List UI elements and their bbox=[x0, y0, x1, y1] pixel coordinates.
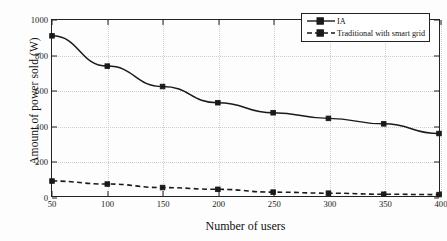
chart-figure: Amount of power sold (W) 501001502002503… bbox=[0, 0, 447, 241]
plot-area: 5010015020025030035040002004006008001000 bbox=[51, 19, 440, 197]
x-tick-label: 100 bbox=[101, 199, 114, 209]
series-line-2 bbox=[52, 181, 439, 195]
x-tick-label: 350 bbox=[379, 199, 392, 209]
legend-item-ia: IA bbox=[306, 16, 425, 26]
data-point-marker bbox=[50, 34, 55, 39]
data-point-marker bbox=[437, 192, 442, 197]
x-tick-label: 300 bbox=[323, 199, 336, 209]
data-point-marker bbox=[160, 84, 165, 89]
y-tick-label: 400 bbox=[35, 122, 48, 132]
x-tick-label: 150 bbox=[157, 199, 170, 209]
y-tick-label: 800 bbox=[35, 50, 48, 60]
series-layer bbox=[52, 20, 439, 196]
y-tick-label: 200 bbox=[35, 157, 48, 167]
chart-legend: IA Traditional with smart grid bbox=[301, 13, 430, 42]
y-tick-label: 1000 bbox=[31, 15, 48, 25]
data-point-marker bbox=[326, 116, 331, 121]
y-tick-mark bbox=[52, 198, 57, 199]
data-point-marker bbox=[381, 122, 386, 127]
data-point-marker bbox=[160, 185, 165, 190]
data-point-marker bbox=[105, 64, 110, 69]
legend-label-ia: IA bbox=[337, 17, 346, 26]
data-point-marker bbox=[271, 190, 276, 195]
legend-marker-dashed-icon bbox=[306, 28, 336, 38]
data-point-marker bbox=[105, 182, 110, 187]
data-point-marker bbox=[50, 179, 55, 184]
data-point-marker bbox=[271, 110, 276, 115]
data-point-marker bbox=[216, 100, 221, 105]
y-tick-label: 600 bbox=[35, 86, 48, 96]
y-tick-mark-right bbox=[434, 198, 439, 199]
legend-marker-solid-icon bbox=[306, 16, 336, 26]
gridline-vertical bbox=[441, 20, 442, 196]
legend-label-traditional: Traditional with smart grid bbox=[337, 29, 425, 38]
data-point-marker bbox=[437, 131, 442, 136]
y-tick-label: 0 bbox=[44, 193, 48, 203]
x-tick-mark-top bbox=[441, 20, 442, 25]
x-tick-label: 200 bbox=[212, 199, 225, 209]
x-tick-label: 250 bbox=[268, 199, 281, 209]
legend-item-traditional: Traditional with smart grid bbox=[306, 28, 425, 38]
y-axis-title: Amount of power sold (W) bbox=[28, 6, 40, 196]
data-point-marker bbox=[381, 192, 386, 197]
data-point-marker bbox=[326, 191, 331, 196]
x-tick-label: 400 bbox=[435, 199, 447, 209]
x-axis-title: Number of users bbox=[51, 219, 440, 234]
series-line-1 bbox=[52, 36, 439, 134]
x-tick-label: 50 bbox=[48, 199, 57, 209]
data-point-marker bbox=[216, 187, 221, 192]
